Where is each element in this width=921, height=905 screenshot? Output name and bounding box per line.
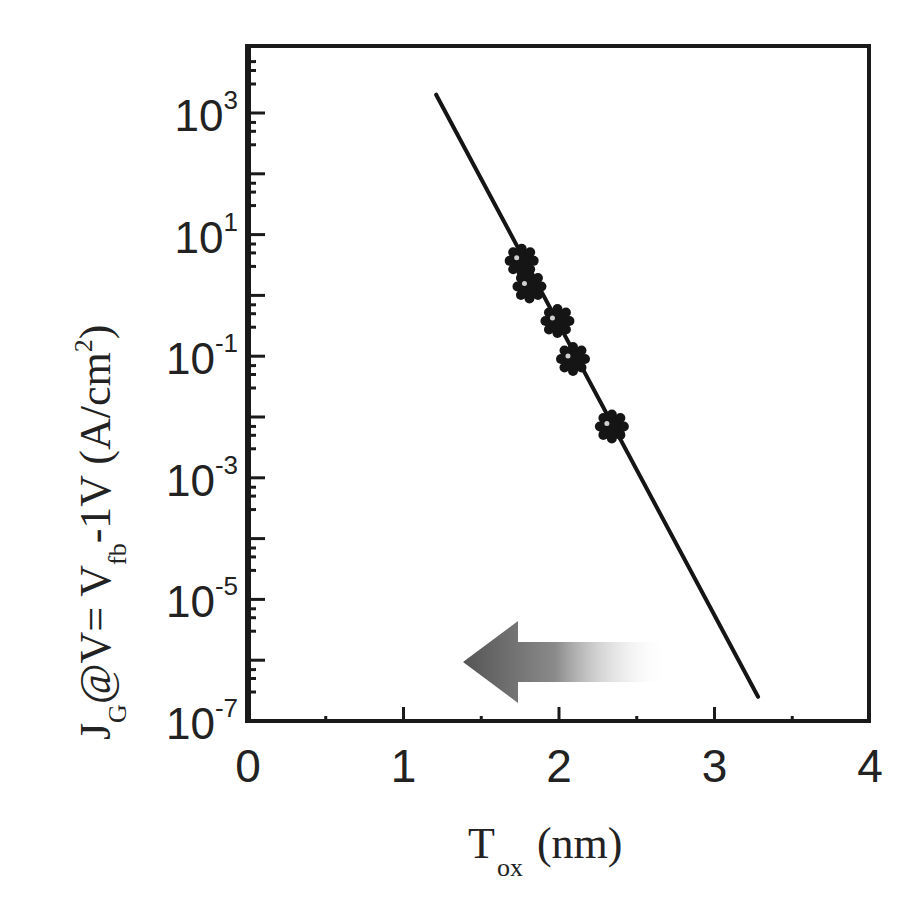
data-markers [505,244,629,444]
y-tick-label: 10-5 [166,571,238,626]
y-tick-label: 10-1 [166,328,238,383]
x-axis-tick-labels: 01234 [235,740,883,792]
data-point [540,304,574,338]
y-tick-label: 10-7 [166,693,238,748]
y-tick-label: 101 [175,207,238,262]
trend-arrow-left-icon [463,621,668,703]
data-point [512,270,546,304]
x-tick-label: 2 [546,740,572,792]
y-tick-label: 103 [175,85,238,140]
x-tick-label: 4 [857,740,883,792]
chart: 10310110-110-310-510-7 01234 Tox(nm) JG@… [0,0,921,905]
data-point [556,342,590,376]
x-tick-label: 3 [702,740,728,792]
y-tick-label: 10-3 [166,450,238,505]
fit-line [436,95,758,697]
x-tick-label: 1 [391,740,417,792]
y-axis-title: JG@V= Vfb-1V (A/cm2) [69,325,132,740]
data-point [595,409,629,443]
x-axis-ticks [326,707,793,721]
plot-frame [247,44,871,723]
x-axis-title: Tox(nm) [468,819,622,882]
y-axis-tick-labels: 10310110-110-310-510-7 [166,85,238,748]
x-tick-label: 0 [235,740,261,792]
